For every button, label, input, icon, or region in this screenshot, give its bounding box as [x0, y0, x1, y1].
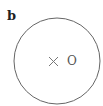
diagram [0, 0, 103, 106]
center-label: O [67, 55, 77, 67]
cross-icon [49, 57, 58, 66]
circle-outline [14, 18, 100, 104]
